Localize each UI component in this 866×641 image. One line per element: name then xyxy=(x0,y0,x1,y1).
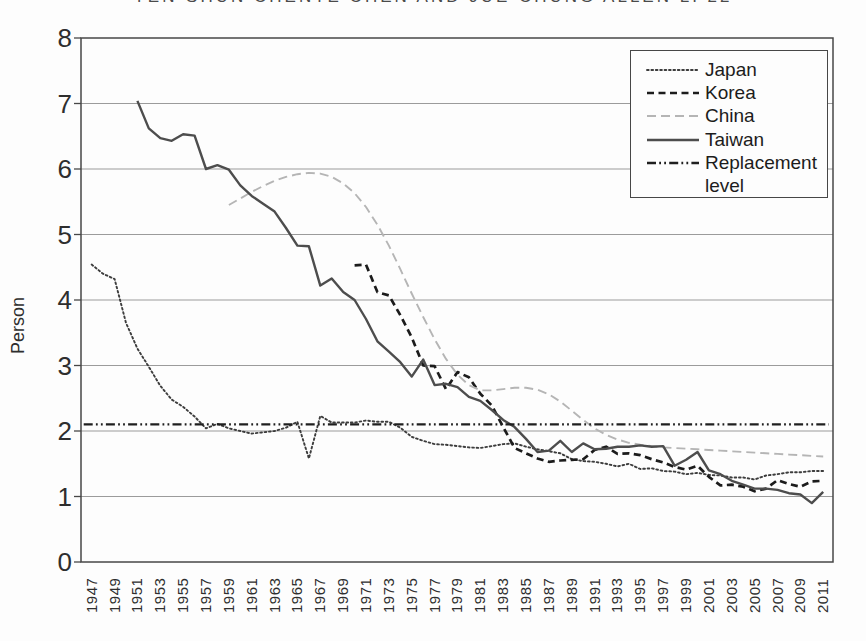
legend-label: Replacement level xyxy=(705,151,823,197)
x-tick-label: 1961 xyxy=(243,567,260,613)
legend-entry-china: China xyxy=(641,104,827,127)
x-tick-label: 1947 xyxy=(83,567,100,613)
x-tick-label: 1951 xyxy=(128,567,145,613)
x-tick-label: 2005 xyxy=(746,567,763,613)
legend-line-sample xyxy=(641,87,705,99)
legend-entry-korea: Korea xyxy=(641,81,827,104)
x-tick-label: 1997 xyxy=(654,567,671,613)
x-tick-label: 1987 xyxy=(540,567,557,613)
x-tick-label: 1977 xyxy=(426,567,443,613)
y-axis-title: Person xyxy=(8,262,29,354)
series-line-china xyxy=(229,173,823,457)
x-tick-label: 2009 xyxy=(791,567,808,613)
legend: JapanKoreaChinaTaiwanReplacement level xyxy=(630,50,828,198)
x-tick-label: 1959 xyxy=(220,567,237,613)
x-tick-label: 1957 xyxy=(197,567,214,613)
y-tick-label: 4 xyxy=(28,284,72,316)
x-tick-label: 1983 xyxy=(494,567,511,613)
legend-label: Korea xyxy=(705,81,756,104)
legend-label: Japan xyxy=(705,58,757,81)
x-tick-label: 1993 xyxy=(608,567,625,613)
x-tick-label: 1981 xyxy=(471,567,488,613)
x-tick-label: 1971 xyxy=(357,567,374,613)
x-tick-label: 1991 xyxy=(586,567,603,613)
x-tick-label: 1953 xyxy=(151,567,168,613)
x-tick-label: 1979 xyxy=(448,567,465,613)
x-tick-label: 1967 xyxy=(311,567,328,613)
legend-line-sample xyxy=(641,110,705,122)
legend-line-sample xyxy=(641,157,705,169)
legend-label: China xyxy=(705,104,755,127)
x-tick-label: 1999 xyxy=(677,567,694,613)
series-line-korea xyxy=(355,265,824,492)
legend-label: Taiwan xyxy=(705,128,764,151)
x-tick-label: 1995 xyxy=(631,567,648,613)
x-tick-label: 2011 xyxy=(814,567,831,613)
x-tick-label: 1949 xyxy=(106,567,123,613)
y-tick-label: 5 xyxy=(28,219,72,251)
legend-entry-replacement-level: Replacement level xyxy=(641,151,827,197)
y-tick-label: 0 xyxy=(28,546,72,578)
x-tick-label: 1969 xyxy=(334,567,351,613)
y-tick-label: 7 xyxy=(28,88,72,120)
y-tick-label: 8 xyxy=(28,22,72,54)
y-tick-label: 6 xyxy=(28,153,72,185)
x-tick-label: 1963 xyxy=(266,567,283,613)
y-tick-label: 2 xyxy=(28,415,72,447)
x-tick-label: 1973 xyxy=(380,567,397,613)
x-tick-label: 1955 xyxy=(174,567,191,613)
x-tick-label: 2001 xyxy=(700,567,717,613)
legend-entry-taiwan: Taiwan xyxy=(641,128,827,151)
legend-entry-japan: Japan xyxy=(641,58,827,81)
x-tick-label: 1989 xyxy=(563,567,580,613)
y-tick-label: 1 xyxy=(28,481,72,513)
x-tick-label: 1975 xyxy=(403,567,420,613)
legend-line-sample xyxy=(641,134,705,146)
x-tick-label: 1965 xyxy=(288,567,305,613)
legend-line-sample xyxy=(641,64,705,76)
fertility-rate-figure: YEN-SHUN CHENTE CHEN AND JUE-CHUNG ALLEN… xyxy=(0,0,866,641)
x-tick-label: 2007 xyxy=(769,567,786,613)
y-tick-label: 3 xyxy=(28,350,72,382)
x-tick-label: 2003 xyxy=(723,567,740,613)
x-tick-label: 1985 xyxy=(517,567,534,613)
